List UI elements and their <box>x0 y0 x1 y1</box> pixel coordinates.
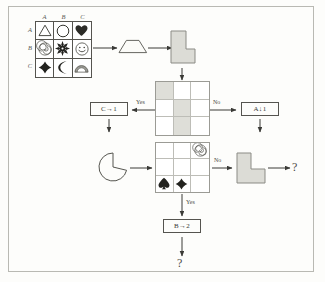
l-block-icon <box>170 30 196 64</box>
matrix-col-header-b: B <box>54 14 73 21</box>
matrix-cell-cb <box>54 59 72 77</box>
arrow-label-no-mid: No <box>214 157 221 163</box>
matrix-cell-cc <box>73 59 91 77</box>
grid-bottom-cell-0-0 <box>156 143 174 159</box>
l-block-shape-right <box>236 152 266 184</box>
grid-top-cell-0-0 <box>156 82 174 100</box>
grid-bottom-cell-2-2 <box>191 176 209 192</box>
spiral-icon <box>194 144 207 157</box>
grid-top-cell-2-2 <box>191 117 209 135</box>
matrix-cell-aa <box>36 22 54 40</box>
op-box-b-to-2[interactable]: B→2 <box>163 219 201 233</box>
question-mark-right: ? <box>292 160 297 175</box>
sun-burst-icon <box>55 41 70 56</box>
diagram-canvas: A B C A B C <box>0 0 325 282</box>
diamond-filled-icon <box>175 178 188 190</box>
grid-top-cell-1-1 <box>174 100 192 118</box>
matrix-cell-bc <box>73 40 91 58</box>
grid-bottom-cell-1-0 <box>156 159 174 175</box>
l-block-shape-top <box>170 30 196 64</box>
matrix-cell-ac <box>73 22 91 40</box>
grid-bottom-cell-0-2 <box>191 143 209 159</box>
matrix-row-header-b: B <box>26 45 34 52</box>
state-grid-bottom <box>155 142 210 193</box>
op-box-a-down-1[interactable]: A↓1 <box>241 102 279 116</box>
op-box-c-to-1[interactable]: C→1 <box>90 102 128 116</box>
arrow-label-no-right: No <box>213 99 220 105</box>
grid-top-cell-0-1 <box>174 82 192 100</box>
grid-top-cell-0-2 <box>191 82 209 100</box>
grid-bottom-cell-2-0 <box>156 176 174 192</box>
grid-bottom-cell-0-1 <box>174 143 192 159</box>
matrix-row-header-a: A <box>26 27 34 34</box>
trapezoid-icon <box>118 38 148 54</box>
state-grid-top <box>155 81 210 136</box>
matrix-cell-bb <box>54 40 72 58</box>
heart-filled-icon <box>75 24 88 37</box>
matrix-cell-ca <box>36 59 54 77</box>
grid-bottom-cell-1-2 <box>191 159 209 175</box>
circle-outline-icon <box>56 24 70 38</box>
pacman-shape <box>98 152 128 182</box>
l-block-icon <box>236 152 266 184</box>
pacman-icon <box>98 152 128 182</box>
diamond-filled-icon <box>38 61 52 74</box>
question-mark-bottom: ? <box>177 256 182 271</box>
spiral-icon <box>38 42 52 56</box>
matrix-row-header-c: C <box>26 63 34 70</box>
matrix-cell-ba <box>36 40 54 58</box>
arrow-label-yes-left: Yes <box>136 99 145 105</box>
grid-top-cell-1-0 <box>156 100 174 118</box>
spade-filled-icon <box>158 177 170 190</box>
rainbow-arch-icon <box>74 63 89 73</box>
matrix-col-header-c: C <box>73 14 92 21</box>
smiley-face-icon <box>75 42 89 56</box>
crescent-moon-icon <box>56 60 69 75</box>
arrow-label-yes-bottom: Yes <box>186 199 195 205</box>
grid-top-cell-2-1 <box>174 117 192 135</box>
grid-bottom-cell-2-1 <box>174 176 192 192</box>
triangle-outline-icon <box>38 24 52 37</box>
matrix-col-header-a: A <box>35 14 54 21</box>
trapezoid-shape <box>118 38 148 54</box>
grid-bottom-cell-1-1 <box>174 159 192 175</box>
matrix-cell-ab <box>54 22 72 40</box>
grid-top-cell-2-0 <box>156 117 174 135</box>
grid-top-cell-1-2 <box>191 100 209 118</box>
